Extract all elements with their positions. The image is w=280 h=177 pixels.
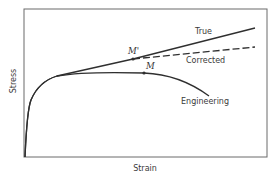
true-curve (25, 28, 255, 157)
plot-frame (24, 9, 267, 157)
y-axis-label: Stress (9, 69, 18, 94)
point-m-prime-marker (131, 57, 134, 60)
engineering-curve (25, 72, 209, 157)
point-m-label: M (145, 61, 155, 71)
point-m-marker (142, 71, 145, 74)
x-axis-label: Strain (133, 164, 157, 173)
point-m-prime-label: M' (127, 46, 139, 56)
corrected-curve-label: Corrected (186, 56, 225, 65)
engineering-curve-label: Engineering (181, 97, 229, 106)
stress-strain-chart: M' M True Corrected Engineering Strain S… (0, 0, 280, 177)
true-curve-label: True (194, 27, 212, 36)
